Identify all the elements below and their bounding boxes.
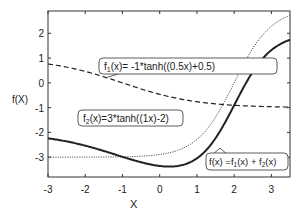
annotation-f2: f2(x)=3*tanh((1x)-2) <box>78 110 183 126</box>
y-tick-label: 0 <box>38 78 44 89</box>
y-tick-label: -2 <box>35 127 44 138</box>
x-tick-label: -1 <box>118 184 127 195</box>
y-tick-label: 2 <box>38 28 44 39</box>
x-tick-label: 1 <box>194 184 200 195</box>
y-tick-label: -3 <box>35 152 44 163</box>
x-axis-label: X <box>130 198 138 210</box>
plot-frame <box>48 11 290 177</box>
svg-text:f1(x)= -1*tanh((0.5x)+0.5): f1(x)= -1*tanh((0.5x)+0.5) <box>104 61 215 73</box>
series-line-2 <box>48 16 290 158</box>
plot-curves <box>48 16 290 167</box>
chart: -3-2-10123-3-2-1012 X f(X) f1(x)= -1*tan… <box>0 0 304 217</box>
annotation-f: f(x) =f1(x) + f2(x) <box>206 148 288 170</box>
y-axis-label: f(X) <box>12 94 28 105</box>
x-tick-label: 0 <box>157 184 163 195</box>
x-tick-label: -2 <box>81 184 90 195</box>
x-tick-label: 3 <box>269 184 275 195</box>
y-tick-label: -1 <box>35 103 44 114</box>
y-tick-label: 1 <box>38 53 44 64</box>
svg-text:f(x) =f1(x) + f2(x): f(x) =f1(x) + f2(x) <box>209 156 276 168</box>
x-tick-label: 2 <box>231 184 237 195</box>
x-tick-label: -3 <box>44 184 53 195</box>
svg-text:f2(x)=3*tanh((1x)-2): f2(x)=3*tanh((1x)-2) <box>83 113 169 125</box>
